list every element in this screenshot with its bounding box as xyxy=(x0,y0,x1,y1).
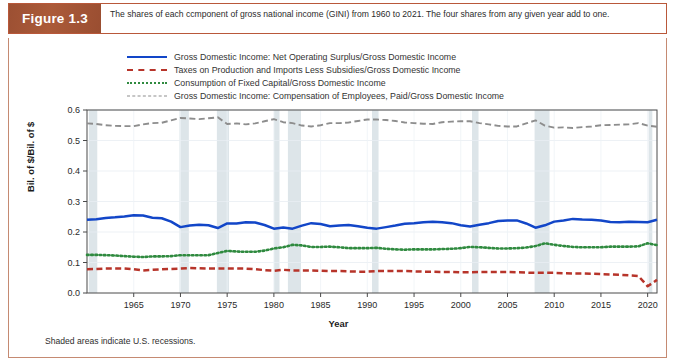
figure-caption-text: The shares of each ccmponent of gross na… xyxy=(101,4,666,33)
chart-footnote: Shaded areas indicate U.S. recessions. xyxy=(45,336,195,346)
legend-label-compensation-of-employees: Gross Domestic Income: Compensation of E… xyxy=(174,91,504,101)
y-tick-label: 0.6 xyxy=(67,105,80,115)
x-tick-label: 2010 xyxy=(544,300,564,310)
x-tick-label: 2000 xyxy=(451,300,471,310)
x-tick-label: 1970 xyxy=(170,300,190,310)
x-tick-label: 1975 xyxy=(217,300,237,310)
x-tick-label: 2005 xyxy=(497,300,517,310)
figure-caption-bar: Figure 1.3 The shares of each ccmponent … xyxy=(8,3,667,34)
y-tick-label: 0.4 xyxy=(67,166,80,176)
y-tick-label: 0.0 xyxy=(67,288,80,298)
legend-label-consumption-fixed-capital: Consumption of Fixed Capital/Gross Domes… xyxy=(174,78,386,88)
x-tick-label: 2020 xyxy=(638,300,658,310)
x-tick-label: 1980 xyxy=(264,300,284,310)
plot-area: 0.00.10.20.30.40.50.61965197019751980198… xyxy=(9,100,668,315)
legend-label-net-operating-surplus: Gross Domestic Income: Net Operating Sur… xyxy=(174,52,456,62)
x-tick-label: 2015 xyxy=(591,300,611,310)
legend-item-taxes-on-production[interactable]: Taxes on Production and Imports Less Sub… xyxy=(127,63,597,76)
x-tick-label: 1985 xyxy=(311,300,331,310)
y-tick-label: 0.5 xyxy=(67,136,80,146)
y-tick-label: 0.1 xyxy=(67,258,80,268)
legend-item-net-operating-surplus[interactable]: Gross Domestic Income: Net Operating Sur… xyxy=(127,50,597,63)
legend-swatch-red-dashed-icon xyxy=(127,64,167,76)
legend-label-taxes-on-production: Taxes on Production and Imports Less Sub… xyxy=(174,65,461,75)
figure-number-label: Figure 1.3 xyxy=(9,4,101,33)
legend-swatch-blue-solid-icon xyxy=(127,51,167,63)
y-tick-label: 0.2 xyxy=(67,227,80,237)
x-tick-label: 1995 xyxy=(404,300,424,310)
figure-body: Gross Domestic Income: Net Operating Sur… xyxy=(8,38,667,358)
chart-svg: 0.00.10.20.30.40.50.61965197019751980198… xyxy=(9,100,668,315)
x-tick-label: 1990 xyxy=(357,300,377,310)
x-tick-label: 1965 xyxy=(124,300,144,310)
y-tick-label: 0.3 xyxy=(67,197,80,207)
legend-item-consumption-fixed-capital[interactable]: Consumption of Fixed Capital/Gross Domes… xyxy=(127,76,597,89)
chart-legend: Gross Domestic Income: Net Operating Sur… xyxy=(127,50,597,102)
x-axis-label: Year xyxy=(9,318,668,329)
chart-block: Bil. of $/Bil. of $ 0.00.10.20.30.40.50.… xyxy=(9,100,668,358)
figure-container: Figure 1.3 The shares of each ccmponent … xyxy=(0,0,675,362)
legend-swatch-green-dotted-icon xyxy=(127,77,167,89)
